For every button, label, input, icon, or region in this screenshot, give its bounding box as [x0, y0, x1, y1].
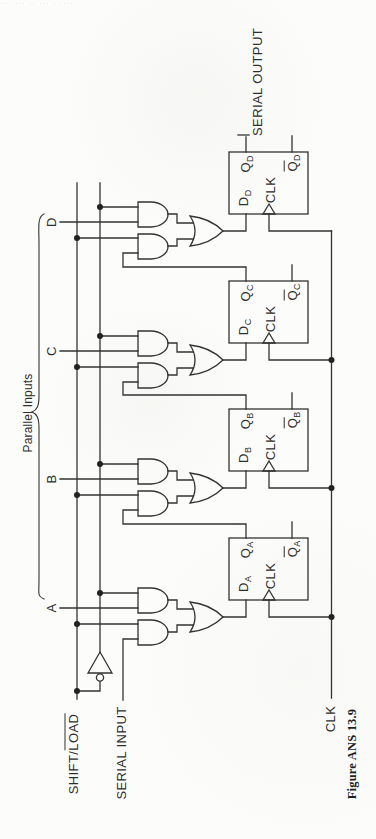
pin-text: Q [238, 162, 253, 173]
wire [168, 368, 193, 375]
junction-dot [74, 688, 80, 694]
ff-d-input-label: DD [237, 190, 254, 206]
scanned-figure-page: ·· ···· ·· ··· · ···· [0, 0, 376, 839]
input-label-b: B [45, 474, 58, 483]
input-label-d: D [45, 217, 58, 227]
not-gate-triangle [88, 652, 112, 673]
pin-sub: D [245, 155, 255, 162]
pin-text: D [236, 196, 251, 206]
pin-text: Q [284, 161, 299, 172]
pin-text: Q [238, 548, 253, 559]
not-gate [74, 652, 112, 694]
junction-dot [74, 364, 80, 370]
wire [223, 214, 246, 231]
wire [123, 253, 246, 281]
junction-dot [97, 204, 103, 210]
pin-sub: B [245, 413, 255, 419]
ff-d-qbar-label: QD [284, 154, 303, 171]
clk-label: CLK [324, 706, 337, 733]
junction-dot [329, 614, 335, 620]
or-gate [190, 345, 223, 375]
pin-sub: A [292, 541, 302, 547]
pin-sub: C [245, 284, 255, 291]
input-rails [77, 183, 332, 700]
serial-input-line [123, 639, 138, 700]
junction-dot [74, 492, 80, 498]
ff-b-input-label: DB [237, 447, 254, 463]
and-gate [138, 234, 168, 259]
wire [269, 343, 332, 360]
junction-dot [74, 621, 80, 627]
or-gate [190, 216, 223, 246]
or-gate [190, 602, 223, 632]
ff-d-q-label: QD [239, 155, 256, 172]
wire [269, 471, 332, 488]
pin-text: Q [284, 290, 299, 301]
and-gate [138, 363, 168, 388]
ff-c-input-label: DC [237, 319, 254, 335]
ff-d-clk-label: CLK [264, 177, 277, 204]
and-gate [138, 459, 168, 484]
parallel-inputs-label: Parallel Inputs [22, 373, 34, 452]
or-gate [190, 473, 223, 503]
wire [77, 682, 100, 691]
wire [123, 510, 246, 538]
wire [168, 239, 193, 246]
junction-dot [329, 485, 335, 491]
clock-edge-marker [263, 461, 275, 471]
pin-sub: B [292, 412, 302, 418]
wire [223, 343, 246, 360]
ff-b-qbar-label: QB [284, 412, 303, 429]
junction-dot [97, 461, 103, 467]
input-label-c: C [45, 346, 58, 356]
ff-c-qbar-label: QC [284, 283, 303, 300]
wire [269, 214, 332, 231]
not-gate-bubble [96, 674, 103, 681]
ff-a-clk-label: CLK [264, 563, 277, 590]
clock-edge-marker [263, 590, 275, 600]
pin-text: Q [238, 419, 253, 430]
pin-sub: C [243, 319, 253, 326]
pin-sub: A [245, 542, 255, 548]
ff-a-input-label: DA [237, 576, 254, 592]
pin-sub: D [243, 190, 253, 197]
circuit-wiring [0, 0, 376, 839]
shift-load-label: SHIFT/LOAD [65, 714, 80, 795]
shift-load-text: SHIFT/ [66, 751, 81, 795]
ff-a-q-label: QA [239, 542, 256, 559]
wire [168, 625, 193, 632]
clock-edge-marker [263, 333, 275, 343]
load-overbar-text: LOAD [65, 714, 80, 751]
ff-a-qbar-label: QA [284, 541, 303, 558]
pin-text: Q [284, 418, 299, 429]
pin-sub: D [292, 154, 302, 161]
wire [269, 600, 332, 617]
pin-sub: C [292, 283, 302, 290]
and-gate [138, 491, 168, 516]
wire [168, 496, 193, 503]
wire [223, 600, 246, 617]
and-gate [138, 588, 168, 613]
pin-text: D [236, 582, 251, 592]
ff-c-clk-label: CLK [264, 306, 277, 333]
pin-sub: A [243, 576, 253, 582]
clock-edge-marker [263, 204, 275, 214]
ff-b-clk-label: CLK [264, 434, 277, 461]
pin-text: Q [238, 291, 253, 302]
and-gate [138, 331, 168, 356]
junction-dot [329, 357, 335, 363]
wire [123, 382, 246, 409]
pin-text: Q [284, 547, 299, 558]
junction-dot [74, 235, 80, 241]
and-gate [138, 620, 168, 645]
pin-sub: B [243, 447, 253, 453]
pin-text: D [236, 325, 251, 335]
input-label-a: A [45, 603, 58, 612]
figure-caption: Figure ANS 13.9 [346, 709, 359, 800]
junction-dot [97, 333, 103, 339]
serial-input-label: SERIAL INPUT [115, 706, 128, 799]
and-gate [138, 202, 168, 227]
ff-c-q-label: QC [239, 284, 256, 301]
ff-b-q-label: QB [239, 413, 256, 430]
wire [223, 471, 246, 488]
